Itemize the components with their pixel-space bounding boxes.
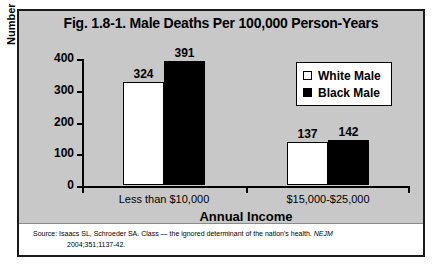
bar-value-label: 142 [338,125,358,139]
bar-value-label: 137 [297,127,317,141]
x-axis-tick [82,188,84,193]
x-axis-title: Annual Income [82,209,410,224]
legend-item: Black Male [303,84,381,101]
bar-white-male: 324 [123,82,164,185]
y-axis-tick [77,154,82,156]
y-axis-tick [77,59,82,61]
bar-white-male: 137 [287,142,328,185]
chart-title: Fig. 1.8-1. Male Deaths Per 100,000 Pers… [19,15,423,31]
bar-value-label: 324 [133,67,153,81]
source-citation: Source: Isaacs SL, Schroeder SA. Class —… [19,223,423,255]
legend-item-label: White Male [318,69,381,83]
legend-item-label: Black Male [318,86,380,100]
source-citation-line-1: Source: Isaacs SL, Schroeder SA. Class —… [33,230,333,237]
source-citation-line-2: 2004;351;1137-42. [67,241,125,248]
y-axis-tick-label: 100 [40,146,74,160]
legend-item: White Male [303,67,381,84]
bar-black-male: 142 [328,140,369,185]
y-axis-tick-label: 400 [40,51,74,65]
source-citation-text: Source: Isaacs SL, Schroeder SA. Class —… [33,230,314,237]
x-axis-category-label: Less than $10,000 [119,193,210,205]
x-axis-category-label: $15,000-$25,000 [286,193,369,205]
bar-value-label: 391 [174,46,194,60]
chart-legend: White Male Black Male [296,62,392,106]
black-square-icon [303,88,312,97]
x-axis-tick [246,188,248,193]
bar-black-male: 391 [164,61,205,185]
y-axis-title: Number of Male Deaths [5,0,17,45]
y-axis-tick-label: 300 [40,83,74,97]
y-axis-tick [77,91,82,93]
y-axis-tick-label: 200 [40,115,74,129]
y-axis-line [82,59,84,188]
white-square-icon [303,71,312,80]
y-axis-tick [77,123,82,125]
figure-frame: Fig. 1.8-1. Male Deaths Per 100,000 Pers… [17,9,425,257]
y-axis-tick-label: 0 [40,178,74,192]
source-journal-name: NEJM [314,230,333,237]
x-axis-tick [408,188,410,193]
